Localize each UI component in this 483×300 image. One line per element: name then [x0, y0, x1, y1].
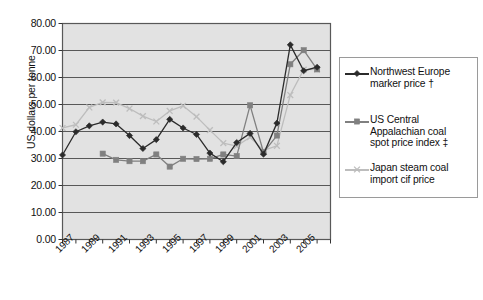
legend-item: US CentralAppalachian coalspot price ind… [344, 114, 476, 149]
legend-label-line: Appalachian coal [370, 126, 448, 138]
legend-label-line: import cif price [370, 174, 448, 186]
legend-label-line: Northwest Europe [370, 66, 450, 78]
legend-marker-cross-icon [344, 163, 370, 176]
legend-marker-diamond-icon [344, 67, 370, 80]
legend-label-line: spot price index ‡ [370, 137, 448, 149]
chart-legend: Northwest Europemarker price † US Centra… [339, 57, 478, 198]
legend-label: Northwest Europemarker price † [370, 66, 450, 89]
legend-item: Japan steam coalimport cif price [344, 162, 476, 185]
legend-label-line: US Central [370, 114, 448, 126]
legend-label: Japan steam coalimport cif price [370, 162, 448, 185]
chart-container: US dollars per tonne 0.0010.0020.0030.00… [0, 0, 483, 300]
legend-label-line: marker price † [370, 78, 450, 90]
legend-marker-square-icon [344, 115, 370, 128]
legend-item: Northwest Europemarker price † [344, 66, 476, 89]
legend-label-line: Japan steam coal [370, 162, 448, 174]
legend-label: US CentralAppalachian coalspot price ind… [370, 114, 448, 149]
